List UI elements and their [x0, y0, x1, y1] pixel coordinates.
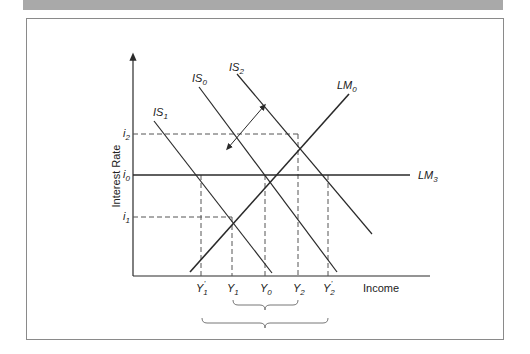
i0-label: i0: [123, 168, 130, 183]
islm-diagram: IS2 IS0 IS1 LM0 LM3 i2 i0 i1 Interest Ra…: [0, 0, 530, 354]
y1p-label: Y1': [196, 279, 208, 297]
y0-label: Y0: [260, 282, 272, 297]
x-axis-label: Income: [363, 282, 399, 294]
lm0-label: LM0: [337, 79, 357, 94]
i2-label: i2: [123, 127, 130, 142]
lm3-label: LM3: [418, 169, 438, 184]
y2p-label: Y2': [323, 279, 335, 297]
shift-double-arrow: [246, 106, 264, 127]
is2-curve: [237, 74, 372, 234]
is0-label: IS0: [192, 72, 207, 87]
inner-brace: [233, 300, 298, 310]
y-axis-label: Interest Rate: [110, 145, 122, 208]
is2-label: IS2: [229, 61, 244, 76]
y1-label: Y1: [227, 282, 239, 297]
i1-label: i1: [123, 210, 130, 225]
lm0-curve: [190, 94, 349, 272]
outer-brace: [202, 318, 328, 328]
is1-curve: [154, 121, 272, 273]
y2-label: Y2: [293, 282, 305, 297]
is1-label: IS1: [153, 106, 168, 121]
is0-curve: [199, 87, 337, 272]
